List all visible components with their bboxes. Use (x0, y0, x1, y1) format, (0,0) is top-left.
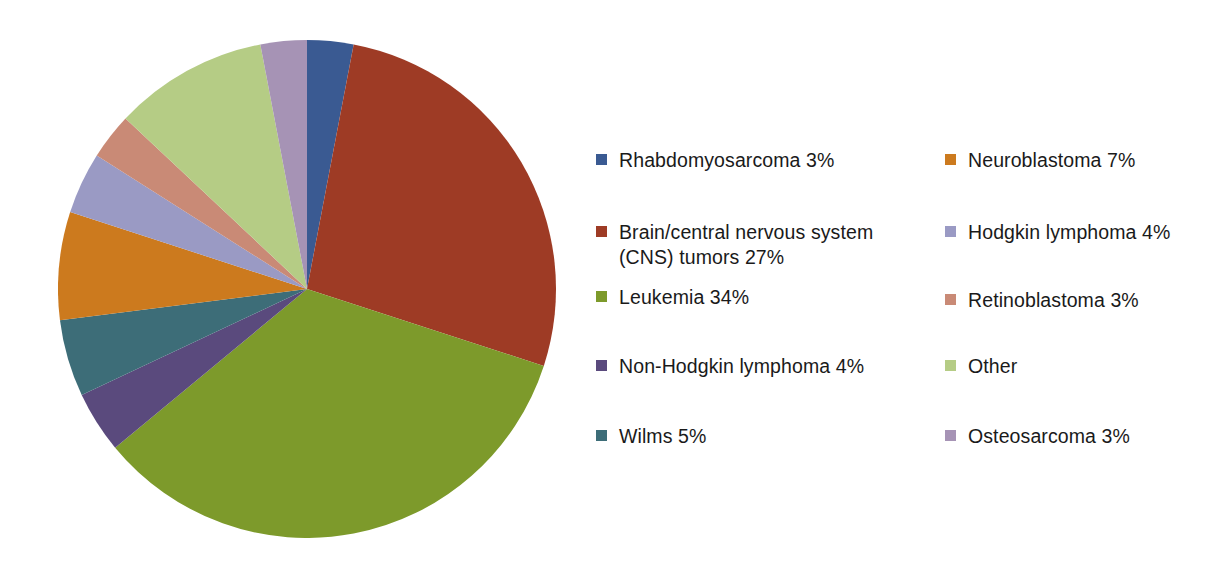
legend-swatch-icon (945, 430, 956, 441)
legend-swatch-icon (945, 226, 956, 237)
legend-item-label: Osteosarcoma 3% (968, 424, 1130, 449)
legend-item-label: Hodgkin lymphoma 4% (968, 220, 1170, 245)
legend-item-label: Rhabdomyosarcoma 3% (619, 148, 834, 173)
legend-item-label: Neuroblastoma 7% (968, 148, 1135, 173)
legend-swatch-icon (596, 291, 607, 302)
legend-swatch-icon (945, 294, 956, 305)
pie-chart: Rhabdomyosarcoma 3%Brain/central nervous… (0, 0, 1223, 575)
legend-item: Brain/central nervous system (CNS) tumor… (596, 220, 873, 270)
legend-item-label: Non-Hodgkin lymphoma 4% (619, 354, 864, 379)
legend-swatch-icon (945, 360, 956, 371)
legend-item: Osteosarcoma 3% (945, 424, 1130, 449)
legend-swatch-icon (596, 226, 607, 237)
legend-item: Neuroblastoma 7% (945, 148, 1135, 173)
legend-item: Rhabdomyosarcoma 3% (596, 148, 834, 173)
pie-slice-group (58, 40, 556, 538)
legend-item: Non-Hodgkin lymphoma 4% (596, 354, 864, 379)
legend: Rhabdomyosarcoma 3%Brain/central nervous… (596, 148, 1216, 458)
legend-item: Wilms 5% (596, 424, 706, 449)
legend-item-label: Brain/central nervous system (CNS) tumor… (619, 220, 873, 270)
pie-svg (58, 40, 556, 538)
legend-item: Hodgkin lymphoma 4% (945, 220, 1170, 245)
legend-item-label: Wilms 5% (619, 424, 706, 449)
legend-item: Retinoblastoma 3% (945, 288, 1139, 313)
legend-swatch-icon (945, 154, 956, 165)
legend-item: Other (945, 354, 1017, 379)
legend-swatch-icon (596, 430, 607, 441)
legend-swatch-icon (596, 360, 607, 371)
pie-figure (58, 40, 556, 538)
legend-item-label: Leukemia 34% (619, 285, 749, 310)
legend-item-label: Other (968, 354, 1017, 379)
legend-item-label: Retinoblastoma 3% (968, 288, 1139, 313)
legend-swatch-icon (596, 154, 607, 165)
legend-item: Leukemia 34% (596, 285, 749, 310)
